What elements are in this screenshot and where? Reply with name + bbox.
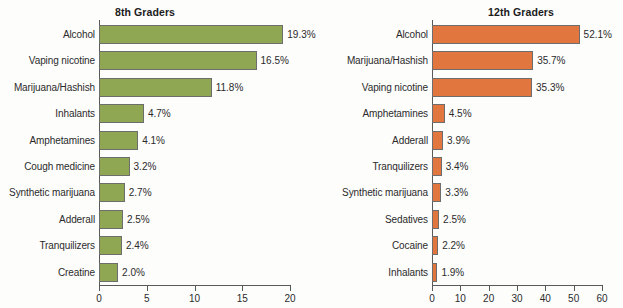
x-axis-tick-label: 10 <box>182 293 208 304</box>
bar <box>432 183 441 202</box>
x-axis-tick-label: 30 <box>504 293 530 304</box>
bar-value-label: 11.8% <box>216 78 244 97</box>
bar <box>99 25 283 44</box>
x-axis-tick <box>460 286 461 291</box>
bar-value-label: 35.3% <box>536 78 564 97</box>
x-axis-tick-label: 40 <box>532 293 558 304</box>
bar <box>99 51 257 70</box>
bar-value-label: 4.5% <box>449 104 472 123</box>
x-axis-tick <box>242 286 243 291</box>
x-axis-tick <box>545 286 546 291</box>
x-axis-tick-label: 10 <box>447 293 473 304</box>
bar <box>99 157 130 176</box>
x-axis-tick-label: 15 <box>229 293 255 304</box>
category-label: Creatine <box>2 263 95 282</box>
bar <box>99 263 118 282</box>
bar-value-label: 1.9% <box>441 263 464 282</box>
bar <box>99 210 123 229</box>
x-axis-tick <box>432 286 433 291</box>
bar-value-label: 3.9% <box>447 131 470 150</box>
category-label: Adderall <box>313 131 428 150</box>
category-label: Cocaine <box>313 236 428 255</box>
x-axis-tick <box>574 286 575 291</box>
bar <box>432 210 439 229</box>
bar <box>432 25 580 44</box>
bar-value-label: 52.1% <box>584 25 612 44</box>
bar-value-label: 3.2% <box>134 157 157 176</box>
bar-value-label: 16.5% <box>261 51 289 70</box>
category-label: Vaping nicotine <box>2 51 95 70</box>
bar-value-label: 2.7% <box>129 183 152 202</box>
bar <box>99 104 144 123</box>
bar-value-label: 2.4% <box>126 236 149 255</box>
bar <box>432 51 533 70</box>
x-axis-tick <box>290 286 291 291</box>
category-label: Adderall <box>2 210 95 229</box>
category-label: Cough medicine <box>2 157 95 176</box>
category-label: Vaping nicotine <box>313 78 428 97</box>
bar <box>99 78 212 97</box>
x-axis-tick-label: 50 <box>561 293 587 304</box>
category-label: Synthetic marijuana <box>313 183 428 202</box>
bar <box>432 131 443 150</box>
bar-value-label: 2.0% <box>122 263 145 282</box>
bar <box>432 78 532 97</box>
bar-value-label: 2.5% <box>127 210 150 229</box>
bar <box>99 236 122 255</box>
x-axis-tick <box>489 286 490 291</box>
category-label: Inhalants <box>2 104 95 123</box>
bar <box>432 263 437 282</box>
bar <box>432 157 442 176</box>
category-label: Tranquilizers <box>2 236 95 255</box>
category-label: Marijuana/Hashish <box>313 51 428 70</box>
category-label: Alcohol <box>2 25 95 44</box>
category-label: Amphetamines <box>2 131 95 150</box>
bar-value-label: 2.2% <box>442 236 465 255</box>
bar-value-label: 35.7% <box>537 51 565 70</box>
x-axis-tick-label: 0 <box>86 293 112 304</box>
bar-value-label: 3.3% <box>445 183 468 202</box>
bar <box>99 131 138 150</box>
category-label: Synthetic marijuana <box>2 183 95 202</box>
x-axis-tick <box>147 286 148 291</box>
x-axis-tick-label: 20 <box>476 293 502 304</box>
category-label: Amphetamines <box>313 104 428 123</box>
x-axis-tick-label: 60 <box>589 293 615 304</box>
category-label: Marijuana/Hashish <box>2 78 95 97</box>
plot-area-8th-graders: 05101520Alcohol19.3%Vaping nicotine16.5%… <box>0 0 311 308</box>
x-axis-tick <box>602 286 603 291</box>
bar-value-label: 4.7% <box>148 104 171 123</box>
category-label: Inhalants <box>313 263 428 282</box>
bar-value-label: 2.5% <box>443 210 466 229</box>
chart-panel-8th-graders: 8th Graders 05101520Alcohol19.3%Vaping n… <box>0 0 311 308</box>
x-axis-tick-label: 0 <box>419 293 445 304</box>
bar <box>432 236 438 255</box>
bar <box>432 104 445 123</box>
category-label: Tranquilizers <box>313 157 428 176</box>
category-label: Alcohol <box>313 25 428 44</box>
bar-value-label: 3.4% <box>446 157 469 176</box>
x-axis-tick <box>517 286 518 291</box>
chart-panel-12th-graders: 12th Graders 0102030405060Alcohol52.1%Ma… <box>311 0 623 308</box>
x-axis-tick-label: 20 <box>277 293 303 304</box>
plot-area-12th-graders: 0102030405060Alcohol52.1%Marijuana/Hashi… <box>311 0 623 308</box>
x-axis-tick <box>195 286 196 291</box>
x-axis-tick <box>99 286 100 291</box>
x-axis-tick-label: 5 <box>134 293 160 304</box>
category-label: Sedatives <box>313 210 428 229</box>
bar-value-label: 4.1% <box>142 131 165 150</box>
bar <box>99 183 125 202</box>
